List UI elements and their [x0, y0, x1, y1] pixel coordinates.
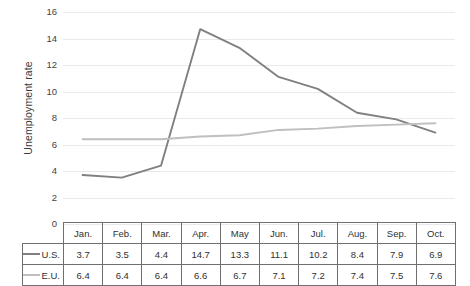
table-header-cell: Jan. — [64, 223, 103, 244]
legend-label: E.U. — [42, 270, 60, 281]
y-axis-tick-label: 14 — [23, 34, 57, 44]
table-data-cell: 6.4 — [103, 265, 142, 286]
chart-figure: Unemployment rate 1614121086420 Jan.Feb.… — [0, 0, 470, 286]
table-body: U.S.3.73.54.414.713.311.110.28.47.96.9E.… — [23, 244, 456, 286]
table-data-cell: 11.1 — [259, 244, 298, 265]
table-data-cell: 14.7 — [181, 244, 220, 265]
table-data-cell: 7.2 — [299, 265, 338, 286]
table-header-cell: Sep. — [377, 223, 416, 244]
y-axis-tick-label: 6 — [23, 140, 57, 150]
y-axis-tick-label: 2 — [23, 193, 57, 203]
table-data-cell: 6.4 — [142, 265, 181, 286]
table-header-cell: Aug. — [338, 223, 377, 244]
table-data-cell: 6.7 — [220, 265, 259, 286]
legend-line-swatch — [23, 253, 40, 255]
y-axis-tick-label: 4 — [23, 166, 57, 176]
table-header-cell: Oct. — [416, 223, 455, 244]
table-data-cell: 7.4 — [338, 265, 377, 286]
table-data-cell: 7.5 — [377, 265, 416, 286]
table-corner-cell — [23, 223, 64, 244]
table-header-cell: Feb. — [103, 223, 142, 244]
table-header-row: Jan.Feb.Mar.Apr.MayJun.Jul.Aug.Sep.Oct. — [23, 223, 456, 244]
plot-area — [63, 12, 455, 224]
legend-label: U.S. — [42, 249, 60, 260]
table-header-cell: May — [220, 223, 259, 244]
series-line-us — [83, 29, 436, 177]
y-axis-tick-label: 10 — [23, 87, 57, 97]
table-data-cell: 10.2 — [299, 244, 338, 265]
table-header-cell: Apr. — [181, 223, 220, 244]
table-data-cell: 6.6 — [181, 265, 220, 286]
legend-cell-eu: E.U. — [23, 265, 64, 286]
table-data-cell: 7.1 — [259, 265, 298, 286]
table-header-cell: Jun. — [259, 223, 298, 244]
table-header-cell: Mar. — [142, 223, 181, 244]
table-data-cell: 3.7 — [64, 244, 103, 265]
table-header-cell: Jul. — [299, 223, 338, 244]
y-axis-tick-label: 8 — [23, 113, 57, 123]
data-table-wrapper: Jan.Feb.Mar.Apr.MayJun.Jul.Aug.Sep.Oct. … — [22, 222, 455, 284]
table-data-cell: 8.4 — [338, 244, 377, 265]
y-axis-tick-label: 12 — [23, 60, 57, 70]
table-data-cell: 7.9 — [377, 244, 416, 265]
table-data-cell: 3.5 — [103, 244, 142, 265]
legend-line-swatch — [23, 274, 40, 276]
series-line-eu — [83, 123, 436, 139]
table-data-cell: 4.4 — [142, 244, 181, 265]
table-data-cell: 6.4 — [64, 265, 103, 286]
y-axis-tick-label: 16 — [23, 7, 57, 17]
table-data-cell: 13.3 — [220, 244, 259, 265]
legend-cell-us: U.S. — [23, 244, 64, 265]
y-axis-title: Unemployment rate — [22, 38, 34, 178]
table-row: E.U.6.46.46.46.66.77.17.27.47.57.6 — [23, 265, 456, 286]
table-row: U.S.3.73.54.414.713.311.110.28.47.96.9 — [23, 244, 456, 265]
data-table: Jan.Feb.Mar.Apr.MayJun.Jul.Aug.Sep.Oct. … — [22, 222, 456, 286]
series-lines — [63, 12, 455, 224]
table-data-cell: 6.9 — [416, 244, 455, 265]
table-data-cell: 7.6 — [416, 265, 455, 286]
